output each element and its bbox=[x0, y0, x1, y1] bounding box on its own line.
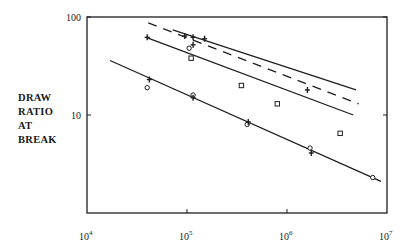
plus-marker bbox=[145, 34, 150, 40]
data-lines bbox=[110, 23, 381, 181]
x-tick-label: 105 bbox=[179, 229, 193, 242]
square-marker bbox=[275, 102, 279, 106]
x-tick-label: 104 bbox=[79, 229, 93, 242]
series-line bbox=[146, 37, 353, 115]
series-line bbox=[173, 30, 356, 90]
square-marker bbox=[239, 83, 243, 87]
plot-frame bbox=[87, 17, 387, 213]
circle-marker bbox=[145, 85, 149, 89]
y-tick-label: 10 bbox=[71, 110, 81, 121]
axis-ticks: 10410510610710010 bbox=[66, 12, 393, 242]
data-markers bbox=[145, 33, 375, 180]
circle-marker bbox=[187, 46, 191, 50]
chart-plot: 10410510610710010 bbox=[0, 0, 414, 251]
square-marker bbox=[338, 131, 342, 135]
plus-marker bbox=[305, 87, 310, 93]
circle-marker bbox=[371, 175, 375, 179]
y-tick-label: 100 bbox=[66, 12, 81, 23]
circle-marker bbox=[308, 146, 312, 150]
x-tick-label: 106 bbox=[279, 229, 293, 242]
square-marker bbox=[189, 56, 193, 60]
series-line bbox=[110, 60, 381, 181]
x-tick-label: 107 bbox=[379, 229, 393, 242]
